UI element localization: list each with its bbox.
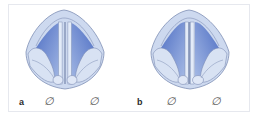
null-marker-icon: ∅ <box>166 96 176 107</box>
panel-label-a: a <box>19 97 24 107</box>
panel-b <box>143 0 238 95</box>
null-marker-icon: ∅ <box>44 96 54 107</box>
vocal-folds-illustration-a <box>18 0 113 95</box>
null-marker-icon: ∅ <box>89 96 99 107</box>
panel-label-b: b <box>137 97 143 107</box>
panel-a <box>18 0 113 95</box>
vocal-folds-illustration-b <box>143 0 238 95</box>
null-marker-icon: ∅ <box>211 96 221 107</box>
